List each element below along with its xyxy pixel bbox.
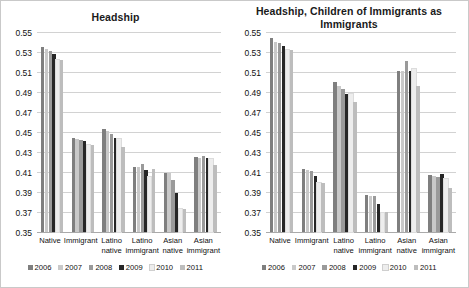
legend-swatch-icon (180, 265, 185, 270)
y-axis-tick-label: 0.35 (244, 229, 261, 238)
chart-title-right: Headship, Children of Immigrants as Immi… (230, 5, 468, 31)
bar (428, 175, 431, 232)
bar (282, 46, 285, 233)
bar (409, 71, 412, 233)
bar (321, 183, 324, 233)
y-axis-tick-label: 0.49 (244, 89, 261, 98)
bar (416, 86, 419, 233)
bar (206, 158, 209, 232)
x-axis-label: Immigrant (63, 236, 99, 255)
y-axis-tick-label: 0.35 (15, 229, 32, 238)
legend-right: 200620072008200920102011 (230, 263, 468, 272)
bar (91, 145, 94, 232)
x-axis-label: Native (266, 236, 294, 255)
y-axis-tick-label: 0.43 (15, 149, 32, 158)
y-axis-tick-label: 0.51 (244, 69, 261, 78)
bar-group (160, 32, 191, 232)
bar (45, 49, 48, 232)
y-axis-tick-label: 0.53 (15, 49, 32, 58)
bar (198, 158, 201, 233)
legend-item[interactable]: 2006 (262, 263, 285, 272)
bar (432, 176, 435, 233)
bar (286, 50, 289, 232)
plot-frame-right: 0.550.530.510.490.470.450.430.410.390.37… (266, 32, 456, 233)
bar (194, 157, 197, 233)
legend-label: 2007 (298, 263, 315, 272)
x-axis-label: Latino native (99, 236, 125, 255)
bar (369, 196, 372, 233)
gridline: 0.35 (266, 232, 456, 233)
bar (164, 173, 167, 232)
bar (349, 94, 352, 232)
chart-panel-headship: Headship 0.550.530.510.490.470.450.430.4… (1, 1, 230, 288)
bar-group (361, 32, 393, 232)
bar (144, 170, 147, 233)
bar (353, 102, 356, 233)
bar (341, 89, 344, 232)
bar-groups-right (266, 32, 456, 232)
legend-label: 2011 (187, 263, 203, 272)
bar (49, 51, 52, 232)
legend-item[interactable]: 2011 (180, 263, 203, 272)
bar (179, 209, 182, 232)
y-axis-tick-label: 0.55 (15, 29, 32, 38)
bar (60, 60, 63, 232)
legend-item[interactable]: 2006 (28, 263, 51, 272)
legend-label: 2009 (126, 263, 143, 272)
y-axis-tick-label: 0.37 (244, 209, 261, 218)
legend-item[interactable]: 2007 (292, 263, 315, 272)
bar (317, 183, 320, 233)
bar (373, 196, 376, 233)
bar (117, 139, 120, 233)
legend-label: 2010 (390, 263, 407, 272)
y-axis-tick-label: 0.41 (244, 169, 261, 178)
legend-label: 2007 (65, 263, 82, 272)
legend-item[interactable]: 2007 (58, 263, 81, 272)
y-axis-tick-label: 0.39 (244, 189, 261, 198)
bar (397, 71, 400, 232)
bar (290, 50, 293, 232)
y-axis-tick-label: 0.37 (15, 209, 32, 218)
gridline: 0.35 (37, 232, 221, 233)
x-axis-label: Asian native (393, 236, 421, 255)
bar (345, 94, 348, 233)
legend-left: 200620072008200920102011 (1, 263, 230, 272)
x-axis-label: Asian immigrant (186, 236, 221, 255)
y-axis-tick-label: 0.49 (15, 89, 32, 98)
bar (83, 141, 86, 232)
x-axis-label: Asian native (160, 236, 186, 255)
bar-group (190, 32, 221, 232)
bar (175, 193, 178, 232)
bar (133, 167, 136, 233)
y-axis-tick-label: 0.43 (244, 149, 261, 158)
x-axis-label: Immigrant (294, 236, 330, 255)
legend-label: 2011 (420, 263, 436, 272)
bar (377, 204, 380, 232)
bar (412, 69, 415, 232)
x-axis-label: Latino immigrant (357, 236, 392, 255)
legend-item[interactable]: 2010 (383, 263, 406, 272)
legend-item[interactable]: 2008 (89, 263, 112, 272)
bar (75, 139, 78, 233)
bar (302, 169, 305, 233)
bar (440, 174, 443, 233)
plot-area-left: 0.550.530.510.490.470.450.430.410.390.37… (37, 32, 221, 233)
bar-group (37, 32, 68, 232)
bar (365, 195, 368, 232)
bar (270, 38, 273, 232)
legend-item[interactable]: 2011 (414, 263, 437, 272)
legend-swatch-icon (353, 265, 358, 270)
legend-label: 2008 (95, 263, 112, 272)
legend-item[interactable]: 2009 (119, 263, 142, 272)
legend-item[interactable]: 2008 (322, 263, 345, 272)
bar (202, 156, 205, 233)
y-axis-tick-label: 0.41 (15, 169, 32, 178)
bar-group (129, 32, 160, 232)
legend-item[interactable]: 2010 (150, 263, 173, 272)
bar (278, 43, 281, 232)
legend-swatch-icon (28, 265, 33, 270)
chart-title-left: Headship (1, 11, 230, 24)
x-axis-label: Latino native (330, 236, 358, 255)
bar (87, 145, 90, 232)
legend-item[interactable]: 2009 (353, 263, 376, 272)
